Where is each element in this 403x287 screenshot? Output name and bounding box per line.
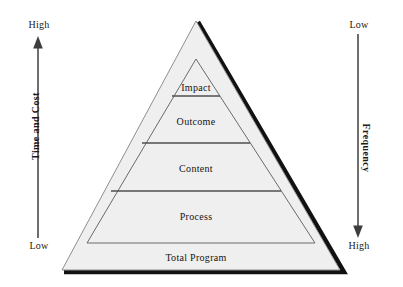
tier-label-impact: Impact: [181, 82, 211, 93]
tier-label-process: Process: [180, 211, 213, 222]
right-axis-bottom-label: High: [338, 240, 380, 251]
right-axis-title: Frequency: [361, 118, 372, 178]
right-axis-top-label: Low: [338, 19, 380, 30]
left-axis-top-label: High: [18, 19, 60, 30]
evaluation-pyramid-figure: High Low Time and Cost Low High Frequenc…: [0, 0, 403, 287]
pyramid-base-label: Total Program: [165, 252, 226, 263]
left-axis-title: Time and Cost: [30, 100, 41, 160]
left-axis-bottom-label: Low: [18, 240, 60, 251]
tier-label-content: Content: [179, 163, 213, 174]
tier-label-outcome: Outcome: [177, 116, 216, 127]
